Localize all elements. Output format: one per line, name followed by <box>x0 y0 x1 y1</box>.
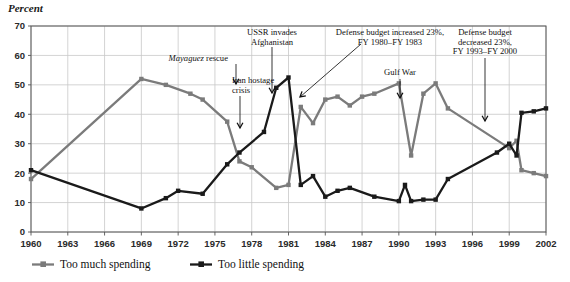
x-tick-label: 1987 <box>352 238 373 249</box>
data-point-marker <box>29 177 33 181</box>
data-point-marker <box>446 177 450 181</box>
data-point-marker <box>433 81 437 85</box>
y-tick-label: 30 <box>14 138 25 149</box>
data-point-marker <box>409 153 413 157</box>
data-point-marker <box>519 111 523 115</box>
data-point-marker <box>403 183 407 187</box>
y-tick-label: 20 <box>14 168 25 179</box>
data-point-marker <box>335 189 339 193</box>
y-tick-label: 70 <box>14 20 25 31</box>
x-tick-label: 1978 <box>241 238 262 249</box>
x-tick-label: 2002 <box>535 238 556 249</box>
data-point-marker <box>29 168 33 172</box>
y-tick-label: 0 <box>20 226 25 237</box>
data-point-marker <box>164 196 168 200</box>
data-point-marker <box>286 183 290 187</box>
data-point-marker <box>299 105 303 109</box>
data-point-marker <box>164 83 168 87</box>
x-tick-label: 1960 <box>20 238 41 249</box>
data-point-marker <box>274 186 278 190</box>
legend-marker-swatch <box>40 261 46 267</box>
y-tick-label: 40 <box>14 109 25 120</box>
x-tick-label: 1975 <box>204 238 226 249</box>
data-point-marker <box>311 121 315 125</box>
x-tick-label: 1993 <box>425 238 446 249</box>
data-point-marker <box>544 106 548 110</box>
legend-label: Too much spending <box>60 258 151 271</box>
data-point-marker <box>299 183 303 187</box>
data-point-marker <box>372 194 376 198</box>
data-point-marker <box>200 192 204 196</box>
x-tick-label: 1972 <box>168 238 189 249</box>
legend-label: Too little spending <box>218 258 304 271</box>
chart-container: Percent 010203040506070 1960196319661969… <box>0 0 570 282</box>
data-point-marker <box>421 197 425 201</box>
x-tick-label: 1984 <box>315 238 337 249</box>
data-point-marker <box>348 103 352 107</box>
data-point-marker <box>409 199 413 203</box>
data-point-marker <box>507 142 511 146</box>
data-point-marker <box>372 91 376 95</box>
x-tick-label: 1963 <box>57 238 78 249</box>
data-point-marker <box>139 77 143 81</box>
annotation-label: Defense budgetdecreased 23%,FY 1993–FY 2… <box>453 27 517 56</box>
data-point-marker <box>495 150 499 154</box>
annotation-label: USSR invadesAfghanistan <box>247 27 298 47</box>
data-point-marker <box>532 171 536 175</box>
x-tick-label: 1969 <box>131 238 152 249</box>
x-tick-label: 1996 <box>462 238 483 249</box>
data-point-marker <box>323 194 327 198</box>
data-point-marker <box>176 189 180 193</box>
data-point-marker <box>532 109 536 113</box>
data-point-marker <box>237 150 241 154</box>
data-point-marker <box>311 174 315 178</box>
data-point-marker <box>286 75 290 79</box>
y-tick-label: 50 <box>14 79 25 90</box>
y-tick-label: 60 <box>14 50 25 61</box>
annotation-label: Mayaguez rescue <box>168 53 229 63</box>
data-point-marker <box>514 153 518 157</box>
annotation-label: Gulf War <box>384 67 416 77</box>
data-point-marker <box>323 97 327 101</box>
legend-marker-swatch <box>198 261 204 267</box>
data-point-marker <box>544 174 548 178</box>
data-point-marker <box>139 206 143 210</box>
data-point-marker <box>200 97 204 101</box>
data-point-marker <box>433 197 437 201</box>
y-tick-label: 10 <box>14 197 25 208</box>
data-point-marker <box>237 159 241 163</box>
x-tick-label: 1990 <box>388 238 409 249</box>
data-point-marker <box>225 162 229 166</box>
data-point-marker <box>250 165 254 169</box>
data-point-marker <box>335 94 339 98</box>
data-point-marker <box>519 168 523 172</box>
data-point-marker <box>348 186 352 190</box>
x-tick-label: 1966 <box>94 238 115 249</box>
data-point-marker <box>225 119 229 123</box>
spending-opinion-line-chart: Percent 010203040506070 1960196319661969… <box>0 0 570 282</box>
data-point-marker <box>397 199 401 203</box>
data-point-marker <box>446 106 450 110</box>
data-point-marker <box>360 94 364 98</box>
data-point-marker <box>421 91 425 95</box>
data-point-marker <box>262 130 266 134</box>
data-point-marker <box>188 91 192 95</box>
y-axis-title: Percent <box>8 2 44 14</box>
x-tick-label: 1981 <box>278 238 300 249</box>
x-tick-label: 1999 <box>499 238 520 249</box>
